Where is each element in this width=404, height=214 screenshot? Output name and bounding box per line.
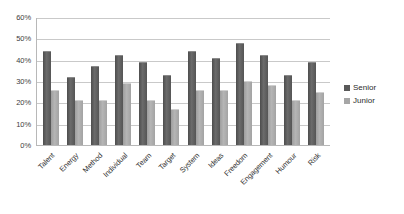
bar-junior — [75, 100, 83, 145]
bar-junior — [268, 85, 276, 145]
x-axis-tick: Individual — [111, 147, 135, 211]
x-axis-tick: System — [183, 147, 207, 211]
x-axis-tick: Target — [159, 147, 183, 211]
legend-item: Junior — [344, 97, 402, 105]
bar-junior — [244, 81, 252, 145]
bar-group — [135, 18, 159, 145]
y-axis-tick-label: 10% — [16, 121, 31, 129]
bar-group — [208, 18, 232, 145]
x-axis-tick: Talent — [38, 147, 62, 211]
x-axis-tick: Energy — [62, 147, 86, 211]
y-axis-tick-label: 20% — [16, 100, 31, 108]
bar-senior — [163, 75, 171, 145]
y-axis-tick-label: 30% — [16, 78, 31, 86]
bars-layer — [37, 18, 330, 145]
bar-junior — [99, 100, 107, 145]
bar-chart: 60%50%40%30%20%10%0% TalentEnergyMethodI… — [0, 0, 404, 214]
x-axis-tick-label: Risk — [306, 151, 322, 167]
bar-group — [111, 18, 135, 145]
bar-group — [87, 18, 111, 145]
x-axis-tick: Engagement — [256, 147, 280, 211]
chart-legend: SeniorJunior — [344, 84, 402, 110]
bar-senior — [212, 58, 220, 145]
bar-senior — [284, 75, 292, 145]
x-axis-tick-label: Target — [157, 151, 178, 172]
x-axis-tick: Risk — [304, 147, 328, 211]
bar-senior — [91, 66, 99, 145]
legend-swatch-icon — [344, 98, 350, 104]
y-axis: 60%50%40%30%20%10%0% — [0, 18, 34, 146]
x-axis-tick-label: Energy — [58, 151, 81, 174]
bar-junior — [292, 100, 300, 145]
bar-group — [256, 18, 280, 145]
legend-label: Junior — [353, 97, 375, 105]
bar-group — [159, 18, 183, 145]
bar-junior — [171, 109, 179, 145]
bar-senior — [43, 51, 51, 145]
bar-senior — [260, 55, 268, 145]
x-axis-tick-label: Talent — [36, 151, 56, 171]
x-axis-tick: Humour — [280, 147, 304, 211]
x-axis-tick: Team — [135, 147, 159, 211]
x-axis: TalentEnergyMethodIndividualTeamTargetSy… — [36, 147, 330, 211]
bar-junior — [196, 90, 204, 145]
bar-group — [232, 18, 256, 145]
bar-senior — [236, 43, 244, 145]
bar-senior — [67, 77, 75, 145]
y-axis-tick-label: 0% — [20, 142, 31, 150]
bar-group — [39, 18, 63, 145]
bar-group — [63, 18, 87, 145]
bar-senior — [188, 51, 196, 145]
bar-senior — [115, 55, 123, 145]
plot-area — [36, 18, 330, 146]
y-axis-tick-label: 60% — [16, 14, 31, 22]
bar-senior — [308, 62, 316, 145]
bar-junior — [316, 92, 324, 145]
legend-swatch-icon — [344, 85, 350, 91]
legend-label: Senior — [353, 84, 376, 92]
x-axis-tick-label: Ideas — [207, 151, 226, 170]
x-axis-tick: Ideas — [207, 147, 231, 211]
y-axis-tick-label: 40% — [16, 57, 31, 65]
bar-group — [280, 18, 304, 145]
bar-junior — [220, 90, 228, 145]
bar-group — [304, 18, 328, 145]
bar-junior — [51, 90, 59, 145]
legend-item: Senior — [344, 84, 402, 92]
x-axis-tick-label: Team — [134, 151, 153, 170]
bar-senior — [139, 62, 147, 145]
y-axis-tick-label: 50% — [16, 36, 31, 44]
bar-junior — [147, 100, 155, 145]
bar-junior — [123, 83, 131, 145]
bar-group — [183, 18, 207, 145]
